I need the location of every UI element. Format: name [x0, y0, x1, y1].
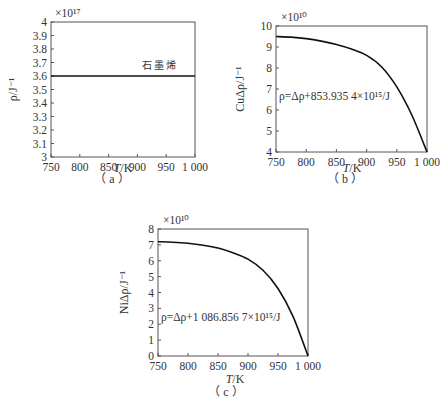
x-tick-label: 800: [298, 156, 316, 168]
y-tick-label: 5: [148, 271, 154, 283]
y-multiplier: ×10¹⁰: [163, 214, 189, 226]
chart-b: 7508008509009501 00045678910×10¹⁰T/KCuΔρ…: [233, 11, 440, 186]
y-tick-label: 4: [41, 16, 47, 28]
x-tick-label: 950: [269, 360, 287, 372]
series-line-Ni: [158, 242, 308, 356]
x-tick-label: 850: [209, 360, 227, 372]
x-tick-label: 950: [388, 156, 406, 168]
x-tick-label: 800: [179, 360, 197, 372]
y-axis-label: ρ/J⁻¹: [6, 77, 20, 101]
y-tick-label: 3.6: [33, 70, 48, 82]
subfigure-caption: （ c ）: [208, 385, 243, 399]
chart-c: 7508008509009501 000012345678×10¹⁰T/KNiΔ…: [117, 214, 321, 399]
figure-canvas: 7508008509009501 00033.13.23.33.43.53.63…: [0, 0, 443, 399]
y-tick-label: 3.8: [33, 43, 48, 55]
x-tick-label: 800: [71, 161, 89, 173]
x-tick-label: 950: [158, 161, 176, 173]
plot-frame: [51, 22, 195, 157]
y-tick-label: 6: [148, 255, 154, 267]
y-tick-label: 3.5: [33, 84, 48, 96]
y-tick-label: 3.2: [33, 124, 48, 136]
y-tick-label: 4: [266, 146, 272, 158]
x-tick-label: 1 000: [295, 360, 321, 372]
annotation: ρ=Δρ+1 086.856 7×10¹⁵/J: [161, 311, 281, 324]
y-tick-label: 3.4: [33, 97, 48, 109]
y-tick-label: 0: [148, 350, 154, 362]
y-axis-label: NiΔρ/J⁻¹: [117, 270, 131, 314]
plot-frame: [158, 229, 308, 356]
y-axis-label: CuΔρ/J⁻¹: [233, 66, 247, 112]
subfigure-caption: （ b ）: [327, 172, 363, 186]
x-axis-label: T/K: [226, 372, 245, 386]
y-tick-label: 8: [266, 62, 272, 74]
y-tick-label: 3: [41, 151, 47, 163]
chart-a: 7508008509009501 00033.13.23.33.43.53.63…: [6, 7, 208, 186]
subfigure-caption: （ a ）: [94, 172, 129, 186]
y-multiplier: ×10¹⁷: [55, 7, 80, 19]
y-tick-label: 3: [148, 302, 154, 314]
y-tick-label: 5: [266, 125, 272, 137]
y-tick-label: 7: [266, 83, 272, 95]
y-tick-label: 8: [148, 223, 154, 235]
x-tick-label: 1 000: [414, 156, 440, 168]
y-tick-label: 4: [148, 287, 154, 299]
y-tick-label: 9: [266, 41, 272, 53]
y-tick-label: 3.3: [33, 111, 48, 123]
y-tick-label: 3.9: [33, 30, 48, 42]
x-tick-label: 900: [239, 360, 257, 372]
x-tick-label: 1 000: [182, 161, 208, 173]
y-tick-label: 6: [266, 104, 272, 116]
y-tick-label: 3.7: [33, 57, 48, 69]
y-tick-label: 1: [148, 334, 154, 346]
annotation: 石墨烯: [142, 59, 178, 71]
y-tick-label: 7: [148, 239, 154, 251]
y-tick-label: 3.1: [33, 138, 48, 150]
y-multiplier: ×10¹⁰: [281, 11, 307, 23]
y-tick-label: 2: [148, 318, 154, 330]
y-tick-label: 10: [261, 20, 273, 32]
annotation: ρ=Δρ+853.935 4×10¹⁵/J: [279, 90, 390, 103]
